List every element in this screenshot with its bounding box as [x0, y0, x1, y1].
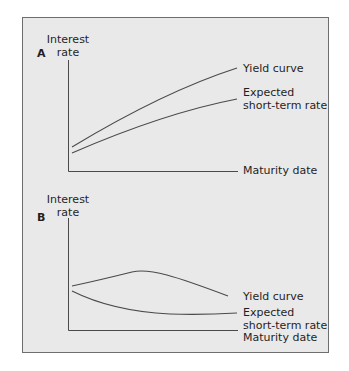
panel-a-yield-curve — [72, 68, 237, 147]
panel-a-ylabel-line1: Interest — [46, 33, 90, 46]
panel-a-yield-label: Yield curve — [243, 62, 304, 75]
panel-b-expected-rate-curve — [72, 291, 237, 314]
panel-a-ylabel-line2: rate — [46, 46, 90, 59]
panel-a-expected-label-line2: short-term rate — [243, 99, 327, 112]
panel-a-xlabel: Maturity date — [243, 164, 317, 177]
panel-b-ylabel-line1: Interest — [46, 193, 90, 206]
panel-a-expected-rate-curve — [72, 99, 237, 153]
panel-b-yield-label: Yield curve — [243, 290, 304, 303]
panel-b-letter: B — [37, 211, 45, 224]
panel-b-xlabel: Maturity date — [243, 331, 317, 344]
panel-a-letter: A — [37, 47, 46, 60]
panel-a-expected-label-line1: Expected — [243, 86, 294, 99]
panel-b-expected-label-line1: Expected — [243, 306, 294, 319]
panel-b-ylabel-line2: rate — [46, 206, 90, 219]
panel-b-yield-curve — [72, 271, 228, 296]
